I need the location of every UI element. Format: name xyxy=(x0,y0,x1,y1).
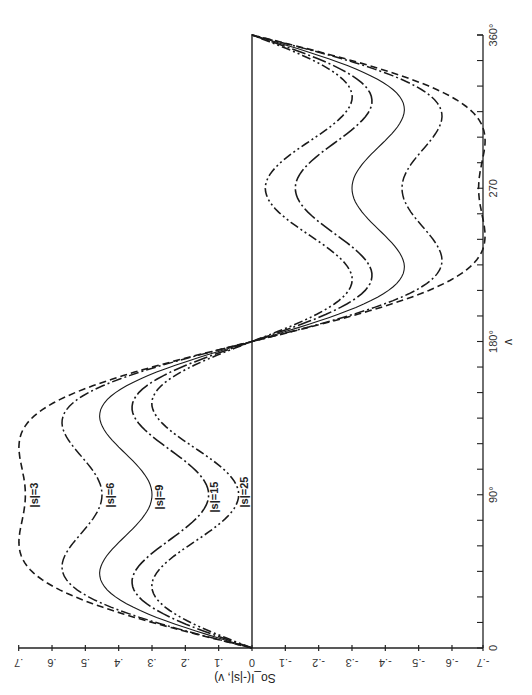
so-tick-label-group: .1 xyxy=(214,657,223,669)
so-tick-label: -.4 xyxy=(379,657,392,669)
curve-label-group: |s|=6 xyxy=(104,483,116,508)
so-tick-label: -.2 xyxy=(312,657,325,669)
so-tick-label-group: .5 xyxy=(81,657,90,669)
v-tick-label-group: 270 xyxy=(487,179,499,197)
v-tick-label-group: 0 xyxy=(487,645,499,651)
so-tick-label: .3 xyxy=(147,657,156,669)
so-tick-label: -.3 xyxy=(346,657,359,669)
v-tick-label-group: 90° xyxy=(487,486,499,503)
so-tick-label-group: -.4 xyxy=(379,657,392,669)
so-tick-label: .6 xyxy=(47,657,56,669)
v-tick-label-group: 360° xyxy=(487,24,499,47)
so-tick-label: .5 xyxy=(81,657,90,669)
v-tick-label: 0 xyxy=(487,645,499,651)
y-axis-title: So_I(-|s|, v) xyxy=(214,671,276,685)
so-tick-label-group: .6 xyxy=(47,657,56,669)
so-tick-label-group: -.7 xyxy=(477,657,490,669)
v-tick-label-group: 180° xyxy=(487,330,499,353)
curve-label: |s|=6 xyxy=(104,483,116,508)
v-tick-label: 180° xyxy=(487,330,499,353)
x-axis-label: v xyxy=(502,339,516,345)
so-tick-label-group: -.1 xyxy=(279,657,292,669)
so-tick-label-group: .7 xyxy=(14,657,23,669)
curve-label: |s|=15 xyxy=(208,482,220,513)
so-tick-label: .4 xyxy=(114,657,123,669)
v-tick-label: 90° xyxy=(487,486,499,503)
so-tick-label: .2 xyxy=(181,657,190,669)
curve-label: |s|=9 xyxy=(153,485,165,510)
so-tick-label-group: 0 xyxy=(249,657,255,669)
curve-label-group: |s|=3 xyxy=(28,483,40,508)
so-tick-label: -.6 xyxy=(446,657,459,669)
curve-labels: |s|=3|s|=6|s|=9|s|=15|s|=25 xyxy=(28,477,250,513)
curve-label-group: |s|=15 xyxy=(208,482,220,513)
v-tick-label: 360° xyxy=(487,24,499,47)
so-tick-label: .1 xyxy=(214,657,223,669)
axes: .7.6.5.4.3.2.10-.1-.2-.3-.4-.5-.6-.7090°… xyxy=(14,24,499,669)
curve-label-group: |s|=9 xyxy=(153,485,165,510)
so-tick-label: 0 xyxy=(249,657,255,669)
so-tick-label: -.1 xyxy=(279,657,292,669)
so-tick-label-group: .4 xyxy=(114,657,123,669)
curve-label: |s|=3 xyxy=(28,483,40,508)
x-axis-title: v xyxy=(502,339,516,345)
so-tick-label-group: .2 xyxy=(181,657,190,669)
so-tick-label-group: -.3 xyxy=(346,657,359,669)
y-axis-label: So_I(-|s|, v) xyxy=(214,671,276,685)
curve-label: |s|=25 xyxy=(238,477,250,508)
so-tick-label: -.7 xyxy=(477,657,490,669)
curve-label-group: |s|=25 xyxy=(238,477,250,508)
so-tick-label-group: .3 xyxy=(147,657,156,669)
so-tick-label-group: -.6 xyxy=(446,657,459,669)
so-tick-label: .7 xyxy=(14,657,23,669)
v-tick-label: 270 xyxy=(487,179,499,197)
so-tick-label: -.5 xyxy=(412,657,425,669)
chart-figure: .7.6.5.4.3.2.10-.1-.2-.3-.4-.5-.6-.7090°… xyxy=(0,0,532,695)
so-tick-label-group: -.5 xyxy=(412,657,425,669)
so-tick-label-group: -.2 xyxy=(312,657,325,669)
